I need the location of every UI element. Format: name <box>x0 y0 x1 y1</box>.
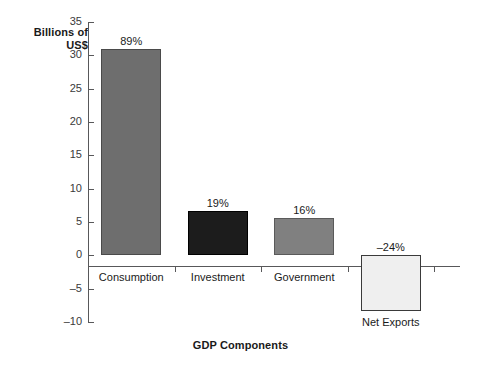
y-axis-tick-label: 5 <box>76 215 82 227</box>
y-axis-tick: –10 <box>88 322 94 323</box>
category-label-consumption: Consumption <box>99 271 164 283</box>
y-axis-tick: 30 <box>88 55 94 56</box>
category-label-net-exports: Net Exports <box>362 316 419 328</box>
y-axis-tick-label: 15 <box>70 148 82 160</box>
y-axis-tick: 5 <box>88 222 94 223</box>
category-label-government: Government <box>274 271 335 283</box>
bar-value-label: 16% <box>293 204 315 216</box>
bar-investment: 19% <box>188 211 248 255</box>
y-axis-tick-label: 25 <box>70 82 82 94</box>
y-axis-tick-label: 20 <box>70 115 82 127</box>
plot-area: 35302520151050–5–10 89%19%16%–24% Consum… <box>88 22 460 322</box>
y-axis-spine <box>88 22 89 322</box>
y-axis-tick-label: 10 <box>70 182 82 194</box>
bar-government: 16% <box>274 218 334 255</box>
bar-consumption: 89% <box>101 49 161 256</box>
y-axis-tick: 35 <box>88 22 94 23</box>
y-axis-tick: 25 <box>88 89 94 90</box>
y-axis-tick: 0 <box>88 255 94 256</box>
x-axis-tick <box>348 266 349 272</box>
x-axis-title: GDP Components <box>0 339 481 351</box>
bar-chart: Billions of US$ 35302520151050–5–10 89%1… <box>0 0 481 371</box>
bar-value-label: 89% <box>120 35 142 47</box>
y-axis-tick-label: –10 <box>64 315 82 327</box>
x-axis-tick <box>261 266 262 272</box>
y-axis-tick-label: 30 <box>70 48 82 60</box>
category-label-investment: Investment <box>191 271 245 283</box>
y-axis-tick-label: 0 <box>76 248 82 260</box>
x-axis-tick <box>434 266 435 272</box>
y-axis-tick: 10 <box>88 189 94 190</box>
y-axis-tick-label: –5 <box>70 282 82 294</box>
bar-value-label: 19% <box>207 197 229 209</box>
bar-net-exports: –24% <box>361 255 421 311</box>
y-axis-tick: 20 <box>88 122 94 123</box>
bar-value-label: –24% <box>377 241 405 253</box>
y-axis-tick: 15 <box>88 155 94 156</box>
x-axis-tick <box>175 266 176 272</box>
y-axis-tick: –5 <box>88 289 94 290</box>
y-axis-tick-label: 35 <box>70 15 82 27</box>
